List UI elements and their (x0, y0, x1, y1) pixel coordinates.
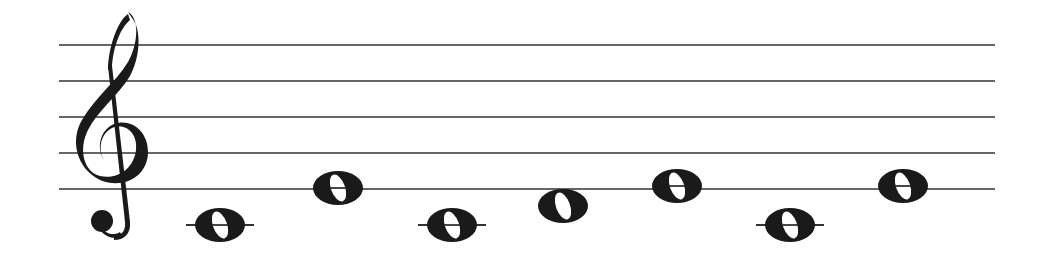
notes (186, 169, 928, 242)
staff-lines (59, 45, 995, 189)
treble-clef-icon (76, 12, 148, 240)
whole-note-e4 (652, 169, 702, 203)
whole-note-c4 (756, 208, 824, 242)
music-staff (0, 0, 1043, 264)
whole-note-c4 (418, 208, 486, 242)
whole-note-d4 (538, 189, 588, 223)
whole-note-e4 (878, 169, 928, 203)
whole-note-c4 (186, 208, 254, 242)
whole-note-e4 (313, 171, 363, 205)
